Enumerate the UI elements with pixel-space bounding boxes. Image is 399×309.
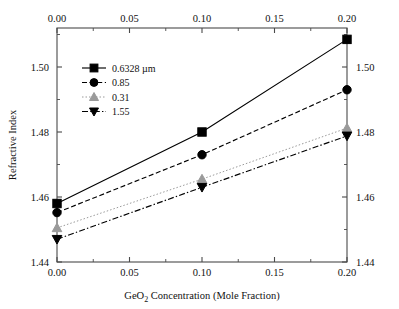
x-tick-label-bottom: 0.00 bbox=[48, 267, 66, 278]
y-tick-label-left: 1.50 bbox=[31, 62, 49, 73]
x-tick-label-top: 0.20 bbox=[338, 13, 356, 24]
legend-label: 0.85 bbox=[112, 77, 130, 88]
legend-marker bbox=[90, 79, 98, 87]
data-point-marker bbox=[198, 151, 206, 159]
legend-label: 0.6328 µm bbox=[112, 63, 156, 74]
data-point-marker bbox=[53, 208, 61, 216]
y-tick-label-right: 1.50 bbox=[356, 62, 374, 73]
refractive-index-line-chart: 0.000.000.050.050.100.100.150.150.200.20… bbox=[0, 0, 399, 309]
x-tick-label-top: 0.10 bbox=[193, 13, 211, 24]
y-tick-label-left: 1.44 bbox=[31, 257, 50, 268]
x-tick-label-top: 0.15 bbox=[265, 13, 283, 24]
y-tick-label-right: 1.48 bbox=[356, 127, 374, 138]
data-point-marker bbox=[53, 199, 61, 207]
chart-figure: 0.000.000.050.050.100.100.150.150.200.20… bbox=[0, 0, 399, 309]
data-point-marker bbox=[198, 128, 206, 136]
y-tick-label-left: 1.48 bbox=[31, 127, 49, 138]
data-point-marker bbox=[343, 35, 351, 43]
y-axis-title: Refractive Index bbox=[7, 109, 18, 180]
x-tick-label-bottom: 0.05 bbox=[120, 267, 138, 278]
y-tick-label-right: 1.44 bbox=[356, 257, 375, 268]
legend-marker bbox=[90, 64, 98, 72]
x-tick-label-bottom: 0.15 bbox=[265, 267, 283, 278]
x-tick-label-bottom: 0.20 bbox=[338, 267, 356, 278]
x-tick-label-top: 0.05 bbox=[120, 13, 138, 24]
legend-label: 1.55 bbox=[112, 106, 130, 117]
y-tick-label-left: 1.46 bbox=[31, 192, 49, 203]
data-point-marker bbox=[343, 86, 351, 94]
x-tick-label-bottom: 0.10 bbox=[193, 267, 211, 278]
y-tick-label-right: 1.46 bbox=[356, 192, 374, 203]
legend-label: 0.31 bbox=[112, 92, 130, 103]
legend-item-0: 0.6328 µm bbox=[82, 63, 156, 74]
x-tick-label-top: 0.00 bbox=[48, 13, 66, 24]
